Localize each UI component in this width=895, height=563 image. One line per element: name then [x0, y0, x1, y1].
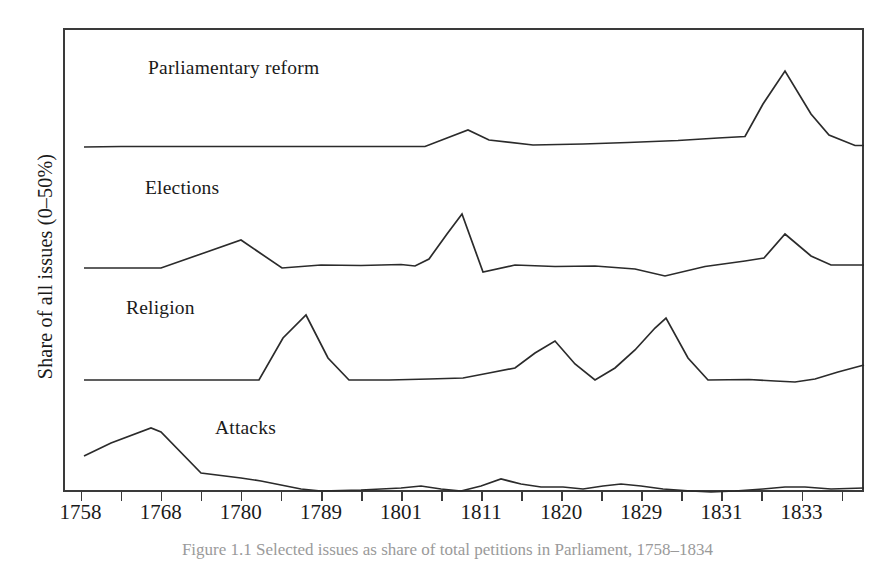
- x-tick-label-1820: 1820: [540, 500, 582, 525]
- x-tick-label-1833: 1833: [781, 500, 823, 525]
- x-tick-label-1780: 1780: [220, 500, 262, 525]
- x-axis-labels: 1758176817801789180118111820182918311833: [63, 500, 864, 530]
- series-label-attacks: Attacks: [215, 417, 276, 439]
- x-tick-label-1768: 1768: [140, 500, 182, 525]
- line-elections: [84, 214, 864, 276]
- line-religion: [84, 315, 864, 382]
- plot-area: Parliamentary reform Elections Religion …: [63, 28, 864, 492]
- line-attacks: [84, 428, 864, 492]
- series-lines: [63, 28, 864, 492]
- x-tick-label-1829: 1829: [620, 500, 662, 525]
- x-tick-label-1789: 1789: [300, 500, 342, 525]
- x-tick-label-1831: 1831: [700, 500, 742, 525]
- line-parliamentary-reform: [84, 71, 864, 147]
- series-label-parliamentary-reform: Parliamentary reform: [148, 57, 319, 79]
- x-tick-label-1801: 1801: [380, 500, 422, 525]
- x-tick-label-1758: 1758: [60, 500, 102, 525]
- series-label-religion: Religion: [126, 297, 195, 319]
- x-tick-label-1811: 1811: [460, 500, 501, 525]
- series-label-elections: Elections: [145, 177, 219, 199]
- y-axis-label: Share of all issues (0–50%): [34, 67, 57, 467]
- figure-caption: Figure 1.1 Selected issues as share of t…: [0, 540, 895, 563]
- figure-container: Share of all issues (0–50%) Parliamentar…: [0, 0, 895, 563]
